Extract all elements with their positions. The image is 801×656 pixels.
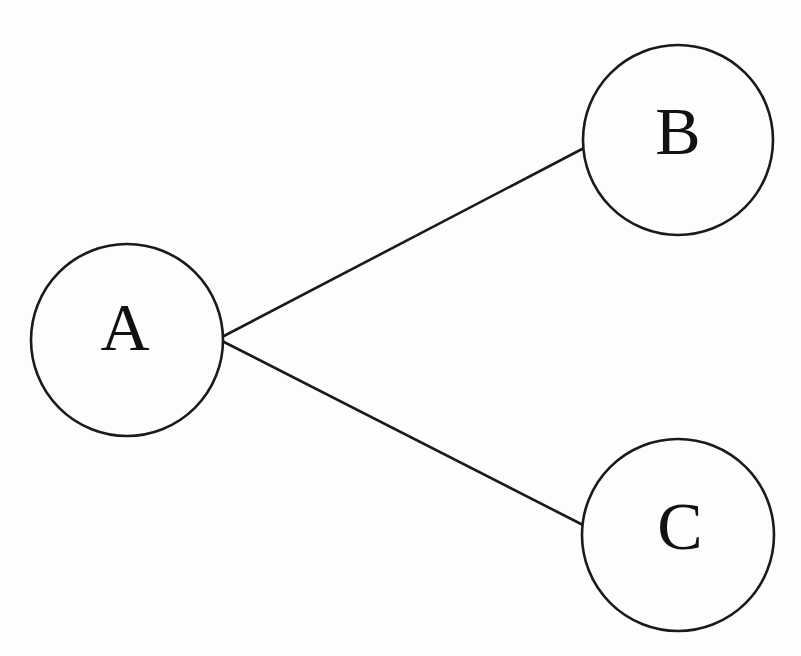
edge-a-b[interactable] xyxy=(222,148,584,337)
edges-group xyxy=(222,148,584,525)
edge-a-c[interactable] xyxy=(222,341,583,525)
node-b[interactable]: B xyxy=(583,45,773,235)
diagram-canvas: A B C xyxy=(0,0,801,656)
graph-svg: A B C xyxy=(0,0,801,656)
node-a-label: A xyxy=(100,289,149,365)
node-c-label: C xyxy=(657,488,702,564)
node-c[interactable]: C xyxy=(582,439,774,631)
node-a[interactable]: A xyxy=(31,244,223,436)
node-b-label: B xyxy=(655,93,700,169)
